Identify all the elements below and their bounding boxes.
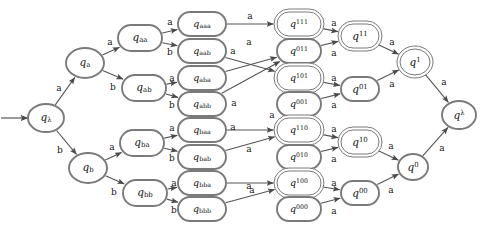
state-outline bbox=[341, 77, 379, 101]
edge bbox=[168, 187, 177, 189]
edge bbox=[166, 94, 178, 97]
edge bbox=[321, 134, 338, 137]
state-outline bbox=[66, 48, 104, 78]
state-node-q_sup111[interactable] bbox=[274, 9, 324, 39]
edge bbox=[222, 61, 280, 93]
edge bbox=[103, 70, 123, 79]
state-outline bbox=[178, 66, 226, 90]
state-node-q_bba[interactable] bbox=[178, 171, 226, 195]
edge bbox=[321, 41, 338, 45]
state-outline bbox=[398, 154, 428, 180]
state-outline bbox=[123, 180, 167, 206]
state-outline bbox=[277, 39, 321, 63]
edge bbox=[322, 82, 340, 85]
edge bbox=[164, 148, 177, 151]
state-outline bbox=[178, 171, 226, 195]
state-node-q_sup101[interactable] bbox=[274, 63, 324, 93]
edge bbox=[57, 131, 77, 155]
state-outline bbox=[118, 25, 162, 51]
automaton-diagram: abababababababaaaaaaaaaaaaaaaaaaaaaaaqλq… bbox=[0, 0, 486, 230]
accepting-outer-ring bbox=[274, 115, 324, 145]
edge bbox=[226, 190, 275, 203]
accepting-outer-ring bbox=[338, 21, 382, 51]
state-node-q_ba[interactable] bbox=[120, 130, 164, 156]
state-outline bbox=[442, 101, 476, 129]
edge bbox=[105, 152, 121, 160]
accepting-outer-ring bbox=[274, 63, 324, 93]
state-node-q_bbb[interactable] bbox=[178, 197, 226, 221]
edge bbox=[162, 43, 177, 46]
state-node-q_abb[interactable] bbox=[178, 92, 226, 116]
state-outline bbox=[277, 92, 321, 116]
edge bbox=[377, 150, 398, 160]
state-node-q_sup110[interactable] bbox=[274, 115, 324, 145]
edge bbox=[423, 127, 448, 155]
edge bbox=[164, 135, 177, 138]
state-outline bbox=[178, 118, 226, 142]
state-node-q_ab[interactable] bbox=[122, 75, 166, 101]
state-node-q_baa[interactable] bbox=[178, 118, 226, 142]
state-node-q_sup11[interactable] bbox=[338, 21, 382, 51]
state-node-q_sup010[interactable] bbox=[277, 145, 321, 169]
edge bbox=[377, 174, 398, 184]
state-node-q_sup01[interactable] bbox=[341, 77, 379, 101]
state-outline bbox=[277, 197, 321, 221]
state-node-q_sup011[interactable] bbox=[277, 39, 321, 63]
state-outline bbox=[69, 153, 107, 183]
state-node-q_aba[interactable] bbox=[178, 66, 226, 90]
edge bbox=[377, 44, 398, 54]
state-outline bbox=[28, 104, 64, 132]
state-outline bbox=[120, 130, 164, 156]
edge bbox=[162, 30, 177, 33]
state-node-q_lambda[interactable] bbox=[28, 104, 64, 132]
edge bbox=[226, 137, 275, 151]
state-outline bbox=[178, 92, 226, 116]
edge bbox=[55, 77, 75, 105]
edge bbox=[102, 47, 119, 55]
state-outline bbox=[178, 39, 226, 63]
state-node-q_bb[interactable] bbox=[123, 180, 167, 206]
edge bbox=[424, 73, 448, 102]
state-outline bbox=[178, 197, 226, 221]
state-node-q_suplam[interactable] bbox=[442, 101, 476, 129]
state-outline bbox=[341, 181, 379, 205]
accepting-outer-ring bbox=[397, 46, 433, 78]
edge bbox=[322, 187, 340, 190]
accepting-outer-ring bbox=[338, 127, 382, 157]
state-node-q_aa[interactable] bbox=[118, 25, 162, 51]
accepting-outer-ring bbox=[274, 168, 324, 198]
state-node-q_sup0[interactable] bbox=[398, 154, 428, 180]
edge bbox=[106, 176, 125, 184]
state-node-q_sup00[interactable] bbox=[341, 181, 379, 205]
edge bbox=[321, 94, 340, 99]
automaton-canvas bbox=[0, 0, 486, 230]
state-node-q_aab[interactable] bbox=[178, 39, 226, 63]
edge bbox=[321, 147, 338, 151]
accepting-outer-ring bbox=[274, 9, 324, 39]
edge bbox=[377, 70, 399, 81]
edge bbox=[167, 82, 177, 84]
node-layer bbox=[28, 9, 476, 221]
edge bbox=[321, 28, 338, 31]
state-outline bbox=[277, 145, 321, 169]
state-outline bbox=[178, 145, 226, 169]
state-node-q_bab[interactable] bbox=[178, 145, 226, 169]
state-node-q_sup000[interactable] bbox=[277, 197, 321, 221]
state-node-q_b[interactable] bbox=[69, 153, 107, 183]
edge bbox=[167, 199, 178, 202]
state-node-q_sup100[interactable] bbox=[274, 168, 324, 198]
state-node-q_aaa[interactable] bbox=[178, 12, 226, 36]
edge bbox=[321, 198, 340, 203]
state-outline bbox=[178, 12, 226, 36]
state-outline bbox=[122, 75, 166, 101]
state-node-q_sup1[interactable] bbox=[397, 46, 433, 78]
state-node-q_sup10[interactable] bbox=[338, 127, 382, 157]
state-node-q_a[interactable] bbox=[66, 48, 104, 78]
state-node-q_sup001[interactable] bbox=[277, 92, 321, 116]
